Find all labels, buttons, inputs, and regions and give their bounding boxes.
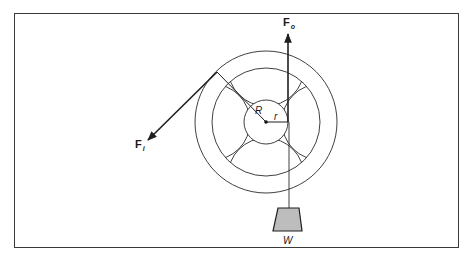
axle-radius-label: r (274, 111, 278, 122)
input-force-label: Fi (135, 138, 146, 152)
weight-block (273, 208, 302, 231)
wheel-and-axle-diagram: Fi Fo R r W (0, 0, 476, 261)
input-force-arrow (148, 72, 217, 140)
wheel-radius-label: R (255, 105, 262, 116)
center-dot (264, 120, 268, 124)
weight-label: W (283, 235, 294, 246)
output-force-label: Fo (283, 16, 296, 30)
